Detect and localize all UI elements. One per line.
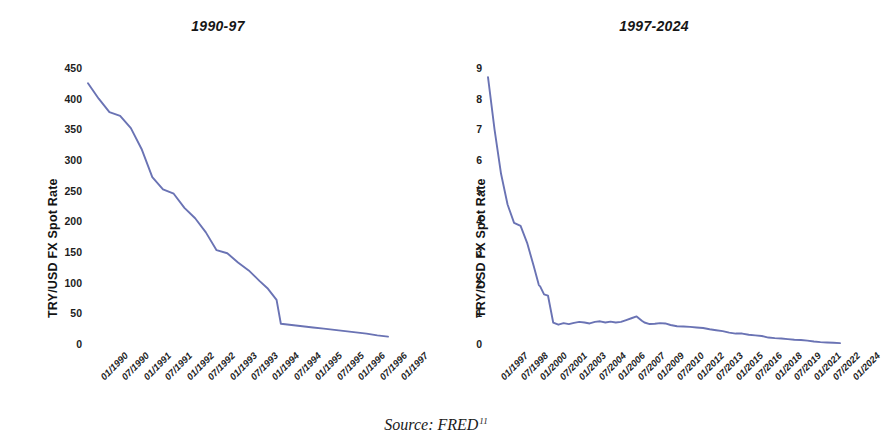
y-tick-label: 450 [50, 62, 82, 74]
y-tick-label: 100 [50, 277, 82, 289]
x-tick-label: 07/2007 [635, 350, 667, 382]
source-caption: Source: FRED11 [0, 416, 872, 434]
y-tick-label: 250 [50, 185, 82, 197]
chart-panel-1997-2024: 1997-2024 TRY/USD FX Spot Rate 012345678… [436, 0, 872, 410]
x-tick-label: 07/1998 [518, 350, 550, 382]
source-footnote-marker: 11 [479, 416, 487, 426]
y-tick-label: 8 [458, 93, 482, 105]
x-tick-label: 01/2009 [654, 350, 686, 382]
y-tick-label: 150 [50, 246, 82, 258]
plot-area-left [88, 68, 388, 344]
x-tick-label: 01/1994 [269, 350, 301, 382]
y-tick-label: 3 [458, 246, 482, 258]
x-tick-label: 07/1994 [291, 350, 323, 382]
y-tick-label: 350 [50, 123, 82, 135]
y-tick-label: 0 [50, 338, 82, 350]
y-tick-label: 9 [458, 62, 482, 74]
x-tick-label: 07/1992 [205, 350, 237, 382]
x-tick-label: 01/2018 [772, 350, 804, 382]
y-tick-label: 6 [458, 154, 482, 166]
x-tick-label: 01/1990 [98, 350, 130, 382]
chart-title-left: 1990-97 [0, 18, 436, 34]
x-tick-label: 07/2010 [674, 350, 706, 382]
plot-area-right [488, 68, 840, 344]
x-tick-label: 07/1996 [377, 350, 409, 382]
x-tick-label: 01/2021 [811, 350, 843, 382]
x-tick-label: 01/1995 [312, 350, 344, 382]
y-tick-label: 50 [50, 307, 82, 319]
y-tick-label: 2 [458, 277, 482, 289]
series-line-right [488, 77, 840, 343]
x-tick-label: 01/1992 [184, 350, 216, 382]
x-tick-label: 01/2012 [694, 350, 726, 382]
x-tick-label: 01/1997 [498, 350, 530, 382]
x-tick-label: 01/1996 [355, 350, 387, 382]
series-line-left [88, 83, 388, 336]
x-tick-label: 07/1991 [162, 350, 194, 382]
chart-panel-1990-97: 1990-97 TRY/USD FX Spot Rate 05010015020… [0, 0, 436, 410]
x-tick-label: 01/2000 [537, 350, 569, 382]
x-tick-label: 07/2016 [752, 350, 784, 382]
y-tick-label: 0 [458, 338, 482, 350]
y-tick-label: 5 [458, 185, 482, 197]
y-tick-label: 400 [50, 93, 82, 105]
x-tick-label: 01/2015 [733, 350, 765, 382]
x-tick-label: 07/1993 [248, 350, 280, 382]
x-tick-label: 01/2003 [576, 350, 608, 382]
y-tick-label: 1 [458, 307, 482, 319]
x-tick-label: 07/2019 [791, 350, 823, 382]
y-tick-label: 200 [50, 215, 82, 227]
x-tick-label: 07/2001 [557, 350, 589, 382]
y-tick-label: 7 [458, 123, 482, 135]
y-tick-label: 300 [50, 154, 82, 166]
x-tick-label: 07/2022 [830, 350, 862, 382]
x-tick-label: 07/1990 [119, 350, 151, 382]
chart-title-right: 1997-2024 [436, 18, 872, 34]
x-tick-label: 01/2024 [850, 350, 882, 382]
x-tick-label: 07/2013 [713, 350, 745, 382]
x-tick-label: 01/1993 [227, 350, 259, 382]
x-tick-label: 01/2006 [615, 350, 647, 382]
x-tick-label: 07/1995 [334, 350, 366, 382]
x-tick-label: 01/1991 [141, 350, 173, 382]
x-tick-label: 01/1997 [398, 350, 430, 382]
y-tick-label: 4 [458, 215, 482, 227]
source-text: Source: FRED [384, 416, 478, 433]
x-tick-label: 07/2004 [596, 350, 628, 382]
